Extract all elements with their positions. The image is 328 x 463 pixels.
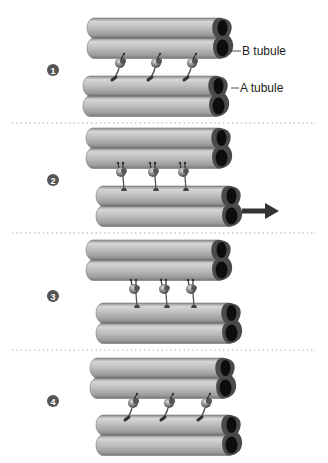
axoneme-sliding-diagram: B tubule A tubule 1 2 3 xyxy=(0,0,328,463)
panel-1: B tubule A tubule 1 xyxy=(47,18,286,117)
step-badge-4: 4 xyxy=(47,395,59,407)
upper-doublet xyxy=(86,240,232,281)
panel-3: 3 xyxy=(47,240,242,344)
lower-doublet xyxy=(83,76,229,117)
upper-doublet xyxy=(90,358,236,399)
panel-4: 4 xyxy=(47,358,242,456)
upper-doublet xyxy=(86,128,232,169)
b-tubule-label: B tubule xyxy=(242,44,286,58)
svg-text:4: 4 xyxy=(50,397,55,407)
svg-text:1: 1 xyxy=(50,66,55,76)
lower-doublet xyxy=(96,415,242,456)
svg-text:2: 2 xyxy=(50,176,55,186)
lower-doublet xyxy=(96,303,242,344)
a-tubule-label: A tubule xyxy=(240,81,284,95)
step-badge-1: 1 xyxy=(47,64,59,76)
sliding-arrow-icon xyxy=(242,203,279,219)
svg-text:3: 3 xyxy=(50,292,55,302)
step-badge-2: 2 xyxy=(47,174,59,186)
panel-2: 2 xyxy=(47,128,279,227)
upper-doublet xyxy=(87,18,233,59)
lower-doublet xyxy=(96,186,242,227)
step-badge-3: 3 xyxy=(47,290,59,302)
